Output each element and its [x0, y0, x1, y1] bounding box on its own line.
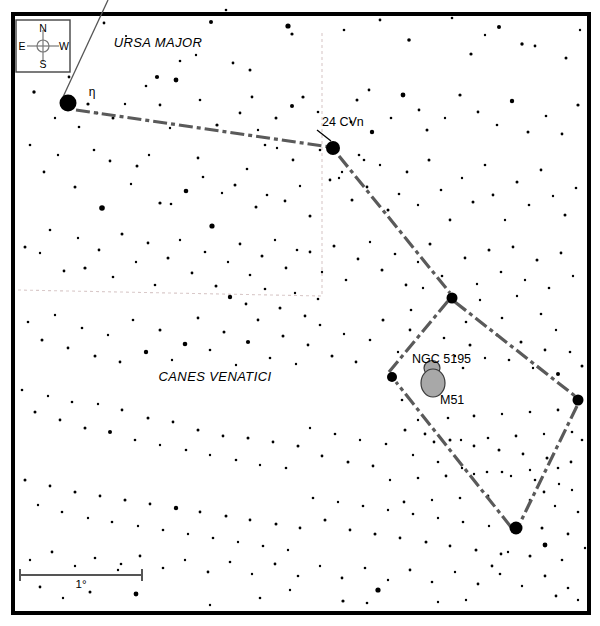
star [401, 93, 406, 98]
star [351, 199, 354, 202]
star [331, 355, 334, 358]
star [561, 559, 564, 562]
star [375, 587, 380, 592]
star [121, 233, 124, 236]
named-star-cvn-vertex-right [573, 395, 584, 406]
star [89, 591, 92, 594]
star [246, 340, 250, 344]
star [584, 547, 586, 549]
star [464, 257, 467, 260]
named-star-cvn-vertex-top [447, 293, 458, 304]
star [121, 409, 124, 412]
star [209, 223, 214, 228]
star [581, 439, 584, 442]
star [437, 517, 439, 519]
star [405, 284, 408, 287]
star [441, 275, 444, 278]
star [362, 505, 365, 508]
star [287, 549, 289, 551]
star [74, 491, 77, 494]
star [112, 276, 115, 279]
star [199, 99, 202, 102]
star [491, 565, 494, 568]
star [527, 131, 530, 134]
star [379, 164, 381, 166]
star [139, 555, 142, 558]
star [289, 589, 291, 591]
star [199, 511, 202, 514]
star [292, 159, 295, 162]
star [191, 272, 194, 275]
star [366, 186, 369, 189]
star [119, 361, 122, 364]
star [540, 169, 543, 172]
star [319, 149, 322, 152]
star [516, 295, 518, 297]
star [59, 419, 62, 422]
star [516, 181, 519, 184]
star [473, 415, 476, 418]
star [249, 274, 252, 277]
star [370, 130, 374, 134]
star [299, 527, 302, 530]
star [51, 551, 54, 554]
star [297, 445, 300, 448]
compass-north-label: N [39, 22, 47, 34]
star [215, 123, 218, 126]
star [540, 313, 543, 316]
star [137, 525, 139, 527]
star [274, 239, 276, 241]
star [132, 319, 135, 322]
star [57, 154, 59, 156]
star [39, 252, 41, 254]
star [521, 585, 523, 587]
star [274, 563, 277, 566]
star [67, 347, 70, 350]
star [543, 491, 546, 494]
compass-west-label: W [59, 40, 69, 52]
star [312, 497, 315, 500]
star [257, 319, 260, 322]
star [147, 242, 150, 245]
star [321, 455, 324, 458]
star [458, 93, 461, 96]
star-chart: URSA MAJOR CANES VENATICI η 24 CVn NGC 5… [0, 0, 600, 626]
star [357, 258, 360, 261]
star [368, 89, 371, 92]
star [239, 243, 242, 246]
star [345, 279, 348, 282]
star [369, 241, 371, 243]
star [544, 575, 547, 578]
star [488, 525, 490, 527]
star [476, 283, 478, 285]
star [135, 261, 137, 263]
star [524, 279, 526, 281]
star [237, 541, 239, 543]
star [571, 431, 574, 434]
star [285, 267, 288, 270]
star [397, 351, 399, 353]
star [431, 581, 434, 584]
star-24-cvn-label: 24 CVn [322, 115, 364, 129]
star [109, 160, 112, 163]
star [437, 461, 440, 464]
star [520, 42, 523, 45]
star [255, 206, 258, 209]
star [319, 565, 321, 567]
star [389, 479, 391, 481]
star [334, 433, 337, 436]
eta-star-label: η [89, 85, 96, 99]
star [412, 454, 414, 456]
star [272, 441, 275, 444]
star [451, 17, 454, 20]
star [507, 551, 509, 553]
star [49, 485, 52, 488]
star [299, 185, 301, 187]
star [504, 219, 506, 221]
ngc-5195-label: NGC 5195 [412, 352, 471, 366]
star [548, 287, 551, 290]
star [581, 365, 584, 368]
star [333, 245, 336, 248]
star [202, 176, 205, 179]
star [167, 257, 170, 260]
